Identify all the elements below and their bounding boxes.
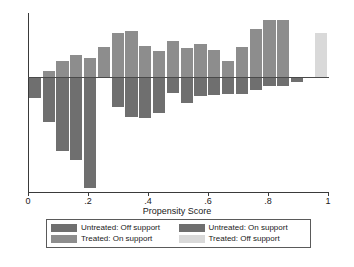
histogram-bar <box>167 41 179 77</box>
histogram-bar <box>222 61 234 77</box>
legend-label: Treated: On support <box>81 234 152 244</box>
histogram-bar <box>181 77 193 103</box>
legend-swatch-icon <box>51 235 77 243</box>
legend-label: Untreated: On support <box>209 223 288 233</box>
histogram-bar <box>112 33 124 77</box>
histogram-bar <box>222 77 234 94</box>
legend-item: Untreated: On support <box>179 223 307 233</box>
legend-item: Treated: Off support <box>179 234 307 244</box>
histogram-bar <box>194 77 206 96</box>
propensity-score-histogram: 0.2.4.6.81 Propensity Score Untreated: O… <box>0 0 354 267</box>
histogram-bar <box>250 29 262 77</box>
histogram-bar <box>236 77 248 94</box>
histogram-bar <box>125 31 137 77</box>
histogram-bar <box>277 20 289 77</box>
legend-swatch-icon <box>179 235 205 243</box>
zero-reference-line <box>28 77 329 78</box>
legend-label: Treated: Off support <box>209 234 280 244</box>
histogram-bar <box>167 77 179 93</box>
legend-label: Untreated: Off support <box>81 223 160 233</box>
histogram-bar <box>208 50 220 77</box>
histogram-bar <box>29 77 41 98</box>
histogram-bar <box>153 51 165 77</box>
histogram-bar <box>125 77 137 117</box>
legend-item: Untreated: Off support <box>51 223 179 233</box>
x-axis-spine <box>28 192 329 193</box>
histogram-bar <box>194 44 206 77</box>
legend-swatch-icon <box>51 224 77 232</box>
plot-area <box>28 13 328 192</box>
histogram-bar <box>43 77 55 122</box>
histogram-bar <box>84 58 96 77</box>
histogram-bar <box>263 20 275 77</box>
histogram-bar <box>56 61 68 77</box>
histogram-bar <box>139 46 151 77</box>
legend: Untreated: Off supportUntreated: On supp… <box>46 219 311 248</box>
histogram-bar <box>181 48 193 77</box>
histogram-bar <box>315 33 327 77</box>
histogram-bar <box>56 77 68 151</box>
histogram-bar <box>70 77 82 160</box>
histogram-bar <box>84 77 96 188</box>
histogram-bar <box>250 77 262 90</box>
histogram-bar <box>236 47 248 77</box>
legend-item: Treated: On support <box>51 234 179 244</box>
histogram-bar <box>277 77 289 86</box>
histogram-bar <box>208 77 220 95</box>
histogram-bar <box>98 47 110 77</box>
legend-swatch-icon <box>179 224 205 232</box>
histogram-bar <box>139 77 151 118</box>
histogram-bar <box>263 77 275 86</box>
x-axis-title: Propensity Score <box>0 206 354 216</box>
histogram-bar <box>153 77 165 113</box>
histogram-bar <box>112 77 124 107</box>
histogram-bar <box>70 55 82 77</box>
